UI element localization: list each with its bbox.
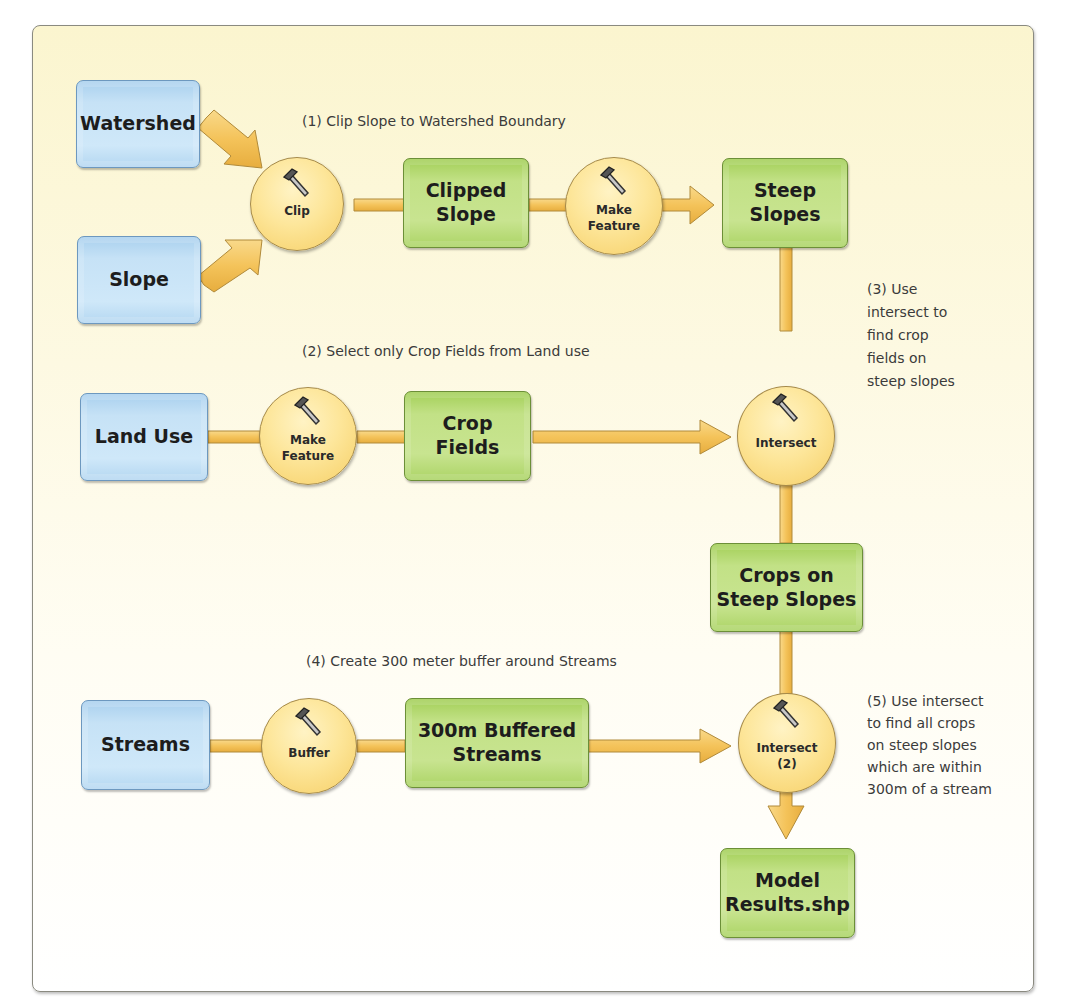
output-label-line2: Slopes bbox=[749, 203, 820, 225]
arrow-slope-to-clip bbox=[198, 240, 262, 292]
input-land-use[interactable]: Land Use bbox=[80, 393, 208, 481]
note-line: which are within bbox=[867, 756, 992, 778]
output-label-line2: Results.shp bbox=[725, 893, 850, 915]
tool-label: Intersect bbox=[756, 436, 817, 452]
output-clipped-slope[interactable]: ClippedSlope bbox=[403, 158, 529, 248]
input-label: Land Use bbox=[95, 425, 193, 449]
tool-label-line2: Feature bbox=[588, 219, 640, 233]
input-streams[interactable]: Streams bbox=[81, 700, 210, 790]
arrow-to-steep-slopes bbox=[662, 186, 714, 224]
output-model-results[interactable]: ModelResults.shp bbox=[720, 848, 855, 938]
output-label-line1: Clipped bbox=[426, 179, 507, 201]
output-label-line1: Model bbox=[755, 869, 820, 891]
note-step-3: (3) Use intersect to find crop fields on… bbox=[867, 278, 955, 393]
output-crops-on-steep-slopes[interactable]: Crops onSteep Slopes bbox=[710, 543, 863, 632]
tool-label-line1: Intersect bbox=[757, 741, 818, 755]
output-crop-fields[interactable]: CropFields bbox=[404, 391, 531, 481]
output-label-line2: Streams bbox=[453, 743, 542, 765]
input-label: Streams bbox=[101, 733, 190, 757]
tool-label-line2: Feature bbox=[282, 449, 334, 463]
output-label-line1: Steep bbox=[754, 179, 816, 201]
output-label: CropFields bbox=[436, 412, 500, 460]
output-label: Crops onSteep Slopes bbox=[717, 564, 857, 612]
hammer-icon bbox=[770, 697, 804, 731]
output-label-line1: Crops on bbox=[739, 564, 833, 586]
output-label: ModelResults.shp bbox=[725, 869, 850, 917]
tool-make-feature-2[interactable]: Make Feature bbox=[259, 387, 357, 485]
note-line: steep slopes bbox=[867, 370, 955, 393]
tool-make-feature-1[interactable]: Make Feature bbox=[565, 157, 663, 255]
note-step-4: (4) Create 300 meter buffer around Strea… bbox=[306, 652, 617, 670]
note-step-5: (5) Use intersect to find all crops on s… bbox=[867, 690, 992, 800]
arrow-to-intersect-2 bbox=[588, 729, 731, 763]
arrow-to-model-results bbox=[768, 790, 804, 839]
tool-label: Buffer bbox=[288, 746, 329, 762]
note-line: (5) Use intersect bbox=[867, 690, 992, 712]
output-label-line2: Fields bbox=[436, 436, 500, 458]
input-label: Watershed bbox=[80, 112, 196, 136]
note-line: find crop bbox=[867, 324, 955, 347]
note-line: 300m of a stream bbox=[867, 778, 992, 800]
output-label-line2: Steep Slopes bbox=[717, 588, 857, 610]
tool-label: Clip bbox=[284, 204, 310, 220]
tool-intersect-2[interactable]: Intersect (2) bbox=[738, 693, 836, 793]
tool-label-line1: Make bbox=[290, 433, 326, 447]
tool-intersect[interactable]: Intersect bbox=[737, 386, 835, 486]
note-step-2: (2) Select only Crop Fields from Land us… bbox=[302, 342, 590, 360]
arrow-to-intersect bbox=[533, 420, 731, 454]
tool-label: Intersect (2) bbox=[757, 741, 818, 772]
tool-label-line2: (2) bbox=[777, 757, 796, 771]
note-line: (3) Use bbox=[867, 278, 955, 301]
hammer-icon bbox=[291, 394, 325, 428]
output-label: SteepSlopes bbox=[749, 179, 820, 227]
tool-label-line1: Make bbox=[596, 203, 632, 217]
hammer-icon bbox=[292, 705, 326, 739]
tool-buffer[interactable]: Buffer bbox=[261, 698, 357, 794]
output-label: 300m BufferedStreams bbox=[418, 719, 576, 767]
note-line: fields on bbox=[867, 347, 955, 370]
input-label: Slope bbox=[109, 268, 169, 292]
output-label-line1: 300m Buffered bbox=[418, 719, 576, 741]
output-label-line2: Slope bbox=[436, 203, 496, 225]
hammer-icon bbox=[597, 164, 631, 198]
tool-label: Make Feature bbox=[282, 433, 334, 464]
arrow-watershed-to-clip bbox=[198, 110, 262, 168]
hammer-icon bbox=[769, 391, 803, 425]
output-label-line1: Crop bbox=[443, 412, 493, 434]
tool-clip[interactable]: Clip bbox=[250, 157, 344, 251]
output-steep-slopes[interactable]: SteepSlopes bbox=[722, 158, 848, 248]
note-line: intersect to bbox=[867, 301, 955, 324]
hammer-icon bbox=[280, 166, 314, 200]
note-line: on steep slopes bbox=[867, 734, 992, 756]
output-label: ClippedSlope bbox=[426, 179, 507, 227]
input-slope[interactable]: Slope bbox=[77, 236, 201, 324]
input-watershed[interactable]: Watershed bbox=[76, 80, 200, 168]
note-step-1: (1) Clip Slope to Watershed Boundary bbox=[302, 112, 566, 130]
note-line: to find all crops bbox=[867, 712, 992, 734]
tool-label: Make Feature bbox=[588, 203, 640, 234]
output-buffered-streams[interactable]: 300m BufferedStreams bbox=[405, 698, 589, 788]
